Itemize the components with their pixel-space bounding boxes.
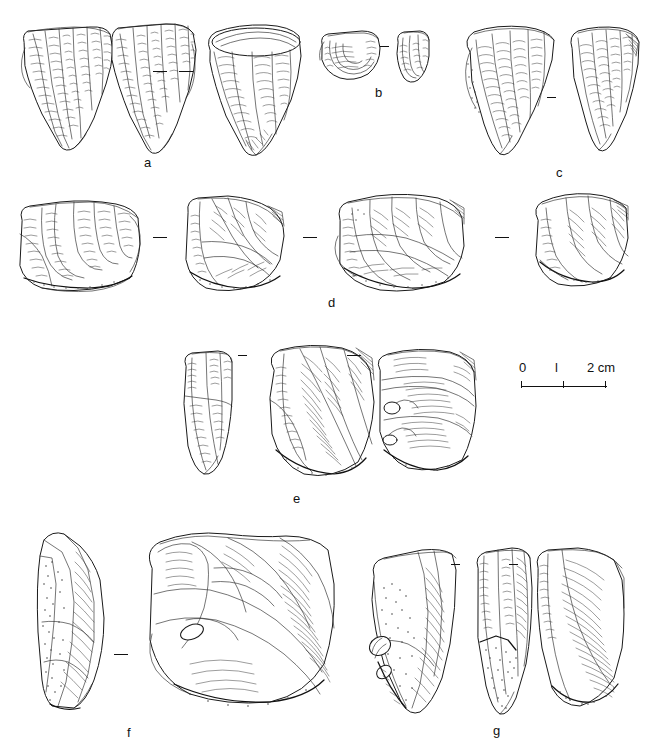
scale-label-2cm: 2 cm <box>587 361 615 374</box>
separator-dash <box>238 355 247 356</box>
separator-dash <box>451 564 460 565</box>
artifact-f-view-1 <box>18 522 114 714</box>
scale-label-1: l <box>555 361 558 374</box>
group-label-c: c <box>556 166 563 179</box>
scale-tick-2 <box>605 381 606 388</box>
group-label-f: f <box>127 726 131 739</box>
artifact-e-view-3 <box>364 344 484 480</box>
artifact-c-view-1 <box>452 22 562 158</box>
separator-dash <box>547 97 556 98</box>
figure-plate: a <box>0 0 647 750</box>
artifact-f-view-2 <box>130 524 340 710</box>
scale-label-0: 0 <box>519 361 526 374</box>
group-label-a: a <box>144 156 151 169</box>
artifact-e-view-1 <box>172 348 242 480</box>
separator-dash <box>495 237 509 238</box>
group-label-d: d <box>328 296 335 309</box>
separator-dash <box>380 46 389 47</box>
scale-tick-0 <box>521 381 522 388</box>
artifact-g-view-3 <box>522 538 632 716</box>
scale-bar-rule <box>521 381 607 390</box>
artifact-d-view-4 <box>524 190 636 300</box>
artifact-b-view-2 <box>390 28 432 86</box>
separator-dash <box>153 237 167 238</box>
separator-dash <box>303 237 317 238</box>
group-label-e: e <box>293 492 300 505</box>
artifact-b-view-1 <box>316 28 384 84</box>
separator-dash <box>153 71 167 72</box>
scale-bar-line <box>521 386 607 387</box>
group-label-g: g <box>493 724 500 737</box>
separator-dash <box>179 71 193 72</box>
separator-dash <box>114 654 128 655</box>
artifact-c-view-2 <box>560 22 644 156</box>
artifact-a-view-2 <box>104 20 202 158</box>
scale-bar: 0 l 2 cm <box>519 361 619 390</box>
artifact-d-view-1 <box>12 194 148 300</box>
separator-dash <box>347 355 361 356</box>
artifact-d-view-3 <box>330 190 474 302</box>
separator-dash <box>509 564 518 565</box>
artifact-d-view-2 <box>172 192 292 300</box>
group-label-b: b <box>375 86 382 99</box>
scale-bar-labels: 0 l 2 cm <box>519 361 619 378</box>
artifact-a-view-3 <box>196 22 308 158</box>
artifact-g-view-1 <box>356 538 464 718</box>
scale-tick-1 <box>563 381 564 388</box>
